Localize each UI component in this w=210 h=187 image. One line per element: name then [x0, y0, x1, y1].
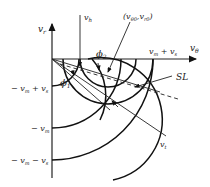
label-point: (vθ0,vr0) — [123, 12, 153, 22]
label-phi1: ϕ1 — [60, 77, 71, 89]
label-sl: SL — [176, 72, 188, 82]
label-vr: vr — [38, 24, 47, 35]
label-vm-plus-vs: vm + vs — [149, 47, 178, 57]
label-neg-vm: − vm — [31, 124, 50, 134]
arrow-phi2 — [98, 63, 99, 70]
label-vt: vt — [160, 140, 168, 150]
label-phi2: ϕ2 — [96, 48, 107, 60]
sl-leader — [135, 76, 172, 87]
label-neg-vm-plus-vs: − vm + vs — [11, 84, 49, 94]
velocity-diagram: vr vθ vh (vθ0,vr0) ϕ1 ϕ2 vm + vs SL vt −… — [0, 0, 210, 187]
point-leader — [108, 22, 130, 72]
label-neg-vm-minus-vs: − vm − vs — [11, 156, 49, 166]
label-vtheta: vθ — [190, 43, 199, 54]
label-vh: vh — [84, 13, 93, 23]
